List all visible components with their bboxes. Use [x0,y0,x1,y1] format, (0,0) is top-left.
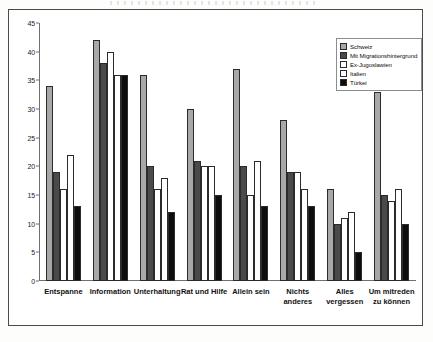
bar [388,201,395,281]
bar [280,120,287,281]
bar [53,172,60,281]
x-axis-label-line: Entspanne [40,287,87,297]
y-axis: 051015202530354045 [9,23,39,281]
legend-item: Mit Migrationshintergrund [340,51,417,60]
y-axis-tick-label: 40 [28,48,35,55]
legend-label: Mit Migrationshintergrund [350,52,417,59]
bar [93,40,100,281]
legend-item: Ex-Jugoslawien [340,60,417,69]
x-axis-category-label: Allein sein [228,283,275,317]
bar [154,189,161,281]
x-axis-category-label: Unterhaltung [134,283,181,317]
x-axis-category-label: Nichtsanderes [274,283,321,317]
bar [215,195,222,281]
bar [121,75,128,281]
bar [46,86,53,281]
bar [187,109,194,281]
bar [374,92,381,281]
bar-group [40,23,87,281]
x-axis-label-line: Information [87,287,134,297]
y-axis-tick-label: 45 [28,20,35,27]
x-axis-category-label: Rat und Hilfe [181,283,228,317]
legend-label: Türkei [350,79,367,86]
bar [201,166,208,281]
y-axis-tick-label: 10 [28,220,35,227]
bar [287,172,294,281]
y-axis-tick-label: 20 [28,163,35,170]
y-axis-tick-label: 15 [28,192,35,199]
bar [60,189,67,281]
chart-page: 051015202530354045 EntspanneInformationU… [0,0,433,342]
legend-swatch-icon [340,43,347,50]
bar [294,172,301,281]
scan-artifact [110,1,320,5]
x-axis-labels: EntspanneInformationUnterhaltungRat und … [40,283,415,317]
y-axis-tick-label: 25 [28,134,35,141]
legend-swatch-icon [340,52,347,59]
legend-item: Türkei [340,78,417,87]
bar [140,75,147,281]
legend-label: Schweiz [350,43,372,50]
y-axis-tick-label: 30 [28,106,35,113]
bar [100,63,107,281]
bar-group [228,23,275,281]
bar [381,195,388,281]
bar [168,212,175,281]
bar [402,224,409,281]
x-axis-category-label: Um mitredenzu können [368,283,415,317]
y-axis-tick-label: 0 [31,278,35,285]
bar [348,212,355,281]
legend-swatch-icon [340,61,347,68]
legend-label: Italien [350,70,366,77]
x-axis-label-line: Rat und Hilfe [181,287,228,297]
chart-legend: SchweizMit MigrationshintergrundEx-Jugos… [336,38,422,91]
legend-swatch-icon [340,79,347,86]
bar [334,224,341,281]
bar [194,161,201,281]
bar-group [87,23,134,281]
bar [114,75,121,281]
legend-label: Ex-Jugoslawien [350,61,392,68]
y-axis-tick-label: 5 [31,249,35,256]
bar [161,178,168,281]
bar [301,189,308,281]
legend-item: Italien [340,69,417,78]
bar [254,161,261,281]
bar [395,189,402,281]
x-axis-label-line: Um mitreden [368,287,415,297]
bar-group [181,23,228,281]
bar [107,52,114,281]
chart-frame: 051015202530354045 EntspanneInformationU… [8,9,423,326]
x-axis-label-line: zu können [368,297,415,307]
legend-swatch-icon [340,70,347,77]
bar-group [134,23,181,281]
bar [67,155,74,281]
bar [208,166,215,281]
y-axis-tick-label: 35 [28,77,35,84]
bar [74,206,81,281]
bar [261,206,268,281]
x-axis-label-line: Allein sein [228,287,275,297]
x-axis-label-line: anderes [274,297,321,307]
x-axis-category-label: Entspanne [40,283,87,317]
bar [308,206,315,281]
x-axis-label-line: vergessen [321,297,368,307]
bar [355,252,362,281]
bar [240,166,247,281]
x-axis-category-label: Allesvergessen [321,283,368,317]
x-axis-label-line: Unterhaltung [134,287,181,297]
bar [327,189,334,281]
x-axis-label-line: Nichts [274,287,321,297]
bar [341,218,348,281]
bar [233,69,240,281]
bar [247,195,254,281]
legend-item: Schweiz [340,42,417,51]
bar-group [274,23,321,281]
x-axis-category-label: Information [87,283,134,317]
bar [147,166,154,281]
x-axis-label-line: Alles [321,287,368,297]
